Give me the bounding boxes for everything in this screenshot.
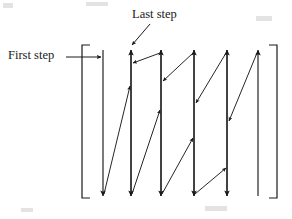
scan-artifact	[205, 206, 227, 211]
last-step-callout-arrow	[132, 24, 150, 45]
last-step-label: Last step	[132, 8, 177, 21]
bracket-right	[269, 45, 277, 198]
retrace-connector-4	[195, 168, 226, 194]
bracket-left	[82, 45, 90, 198]
retrace-connector-8	[229, 53, 257, 121]
scan-artifact	[21, 208, 33, 212]
retrace-connector-2	[132, 110, 160, 194]
raster-scan-diagram: Last step First step	[0, 0, 292, 219]
scan-path-svg	[0, 0, 292, 219]
retrace-connector-7	[196, 53, 226, 103]
first-step-label: First step	[8, 49, 54, 62]
scan-artifact	[256, 16, 272, 21]
scan-artifact	[3, 3, 13, 8]
scan-artifact	[86, 2, 108, 6]
retrace-connector-1	[104, 86, 130, 194]
retrace-connector-6	[163, 53, 193, 81]
retrace-connector-5	[133, 53, 160, 63]
retrace-connector-3	[162, 138, 193, 194]
